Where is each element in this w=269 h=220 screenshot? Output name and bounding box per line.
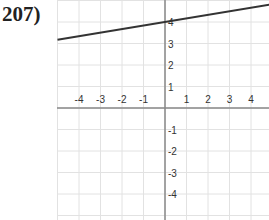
y-tick-label: -4 [168,189,177,200]
x-tick-label: -2 [118,94,127,105]
x-tick-label: 2 [205,94,211,105]
x-tick-label: 4 [248,94,254,105]
x-tick-label: 1 [184,94,190,105]
x-tick-label: -1 [139,94,148,105]
y-tick-label: 1 [168,82,174,93]
x-tick-label: -4 [75,94,84,105]
y-tick-label: -1 [168,125,177,136]
x-tick-label: -3 [96,94,105,105]
y-tick-label: -3 [168,168,177,179]
coordinate-plane: -4-3-2-112344321-1-2-3-4 [0,0,269,220]
y-tick-label: 4 [168,17,174,28]
y-tick-label: -2 [168,146,177,157]
y-tick-label: 2 [168,60,174,71]
x-tick-label: 3 [227,94,233,105]
y-tick-label: 3 [168,39,174,50]
